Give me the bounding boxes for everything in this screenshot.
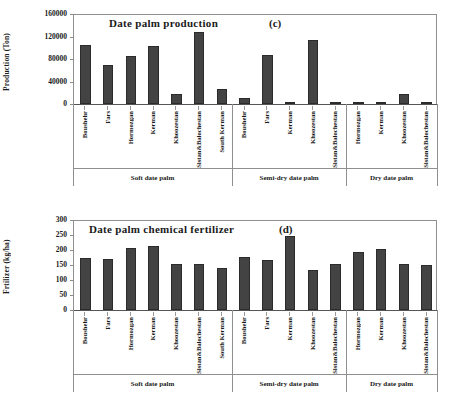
- x-tick-label: Sistan&Balochestan: [195, 111, 202, 168]
- x-tick-label: Kerman: [377, 111, 384, 134]
- x-tick-mark: [335, 312, 336, 316]
- x-tick-mark: [244, 106, 245, 110]
- bar: [308, 40, 318, 104]
- x-tick-label: Kerman: [149, 111, 156, 134]
- group-label: Semi-dry date palm: [232, 380, 346, 388]
- x-tick-mark: [357, 312, 358, 316]
- x-tick-mark: [403, 106, 404, 110]
- bar: [103, 65, 113, 104]
- bar: [148, 46, 158, 104]
- bar: [194, 32, 204, 104]
- x-tick-label: Kerman: [286, 317, 293, 340]
- bar: [194, 264, 204, 311]
- bar: [103, 259, 113, 310]
- y-tick-label: 80000: [48, 55, 67, 63]
- x-axis-line-c: [73, 104, 437, 105]
- bar: [217, 89, 227, 104]
- x-tick-mark: [84, 312, 85, 316]
- y-tick-label: 300: [56, 216, 67, 224]
- x-tick-mark: [426, 312, 427, 316]
- bar: [285, 236, 295, 310]
- x-tick-mark: [175, 106, 176, 110]
- chart-date-palm-production: Production (Ton) 04000080000120000160000…: [0, 0, 454, 208]
- bar: [308, 270, 318, 311]
- x-tick-mark: [426, 106, 427, 110]
- x-tick-label: Hormozgan: [354, 317, 361, 350]
- x-tick-mark: [244, 312, 245, 316]
- x-tick-label: Kerman: [286, 111, 293, 134]
- x-tick-label: Fars: [104, 111, 111, 124]
- x-tick-label: Sistan&Balochestan: [422, 317, 429, 374]
- x-tick-mark: [266, 312, 267, 316]
- bar: [126, 248, 136, 310]
- x-tick-mark: [153, 106, 154, 110]
- y-tick-label: 100: [56, 276, 67, 284]
- group-label: Dry date palm: [346, 380, 437, 388]
- bar: [421, 265, 431, 310]
- x-tick-label: Fars: [263, 111, 270, 124]
- y-axis-title-d: Frtilizer (kg/ha): [2, 228, 11, 306]
- x-tick-mark: [107, 106, 108, 110]
- x-tick-mark: [335, 106, 336, 110]
- panel-label-c: (c): [269, 17, 281, 29]
- bar: [262, 260, 272, 310]
- bar: [353, 252, 363, 310]
- group-label: Semi-dry date palm: [232, 174, 346, 182]
- chart-date-palm-chemical-fertilizer: Frtilizer (kg/ha) 050100150200250300 Dat…: [0, 206, 454, 415]
- bar: [171, 264, 181, 310]
- bar: [148, 246, 158, 310]
- x-tick-mark: [312, 312, 313, 316]
- x-tick-mark: [84, 106, 85, 110]
- x-tick-label: Sistan&Balochestan: [331, 111, 338, 168]
- y-axis-title-c: Production (Ton): [2, 26, 11, 98]
- x-tick-mark: [130, 312, 131, 316]
- bar: [217, 268, 227, 310]
- group-separator: [437, 104, 438, 186]
- x-tick-label: Kerman: [377, 317, 384, 340]
- bar: [399, 94, 409, 104]
- x-tick-label: Khoozestan: [172, 317, 179, 350]
- y-tick-label: 50: [60, 291, 68, 299]
- plot-area-c: Date palm production (c): [73, 14, 437, 104]
- bar: [399, 264, 409, 310]
- x-tick-label: Hormozgan: [354, 111, 361, 144]
- group-label: Soft date palm: [73, 380, 232, 388]
- x-tick-label: Khoozestan: [400, 317, 407, 350]
- x-tick-mark: [380, 312, 381, 316]
- x-tick-label: Sistan&Balochestan: [422, 111, 429, 168]
- group-axis-line: [73, 374, 437, 375]
- x-tick-mark: [380, 106, 381, 110]
- bar: [80, 258, 90, 310]
- x-tick-label: Boushehr: [240, 317, 247, 344]
- x-tick-label: Hormozgan: [127, 111, 134, 144]
- x-axis-category-labels-c: BoushehrFarsHormozganKermanKhoozestanSis…: [73, 106, 437, 166]
- group-label: Soft date palm: [73, 174, 232, 182]
- x-tick-label: Fars: [263, 317, 270, 330]
- x-tick-mark: [153, 312, 154, 316]
- y-tick-label: 160000: [45, 10, 68, 18]
- x-tick-mark: [198, 312, 199, 316]
- y-tick-label: 40000: [48, 78, 67, 86]
- x-tick-mark: [289, 106, 290, 110]
- x-tick-mark: [130, 106, 131, 110]
- bar: [239, 257, 249, 310]
- x-tick-label: Boushehr: [81, 111, 88, 138]
- x-tick-mark: [266, 106, 267, 110]
- bar: [376, 249, 386, 310]
- x-tick-label: Sistan&Balochestan: [331, 317, 338, 374]
- y-tick-label: 250: [56, 231, 67, 239]
- bar: [80, 45, 90, 104]
- x-tick-label: Fars: [104, 317, 111, 330]
- x-axis-category-labels-d: BoushehrFarsHormozganKermanKhoozestanSis…: [73, 312, 437, 372]
- x-tick-label: Khoozestan: [400, 111, 407, 144]
- x-tick-label: Khoozestan: [309, 317, 316, 350]
- y-tick-label: 150: [56, 261, 67, 269]
- chart-title-d: Date palm chemical fertilizer: [89, 223, 234, 235]
- x-tick-label: South Kerman: [218, 317, 225, 359]
- y-axis-ticks-c: 04000080000120000160000: [36, 14, 70, 104]
- x-tick-mark: [357, 106, 358, 110]
- x-tick-mark: [289, 312, 290, 316]
- x-tick-label: Khoozestan: [309, 111, 316, 144]
- group-axis-line: [73, 168, 437, 169]
- x-tick-mark: [221, 312, 222, 316]
